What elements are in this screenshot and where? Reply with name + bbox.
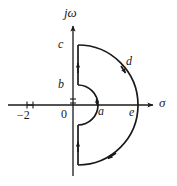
origin-label: 0 [61,108,67,120]
point-label-d: d [126,55,132,67]
tick-label-minus-2: −2 [17,109,30,121]
nyquist-contour-figure: jω σ 0 −2 a b c d e [0,0,177,186]
nyquist-contour-svg [0,0,177,186]
point-label-e: e [129,106,134,118]
axis-label-jomega: jω [64,6,77,19]
point-label-a: a [98,105,104,117]
axis-label-sigma: σ [159,96,165,109]
point-label-b: b [58,78,64,90]
point-label-c: c [58,38,63,50]
